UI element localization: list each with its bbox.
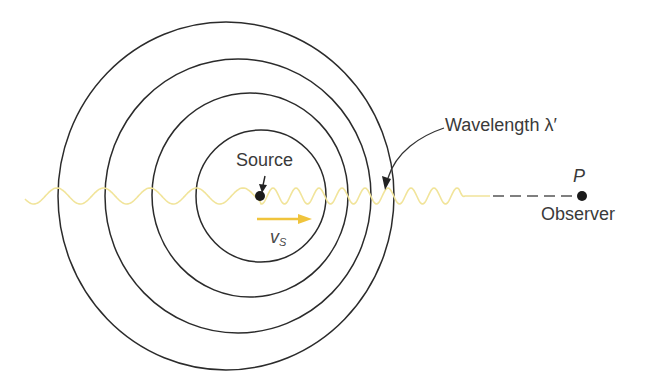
observer-dot [577,191,587,201]
velocity-arrow [257,214,312,224]
diagram-canvas [0,0,656,386]
observer-label: Observer [541,205,615,223]
source-label: Source [236,151,293,169]
velocity-subscript: S [279,236,286,248]
wavefront-circles [58,22,394,370]
wavefront-circle [105,59,371,333]
wavefront-circle [58,22,394,370]
source-pointer [259,176,267,193]
velocity-symbol: v [270,227,279,247]
source-dot [255,191,265,201]
wavelength-label: Wavelength λ′ [445,116,557,134]
wavelength-pointer [382,128,444,190]
velocity-label: vS [270,228,286,248]
wavefront-circle [152,93,348,297]
doppler-diagram: Source Wavelength λ′ P Observer vS [0,0,656,386]
observer-point-label: P [573,167,585,185]
